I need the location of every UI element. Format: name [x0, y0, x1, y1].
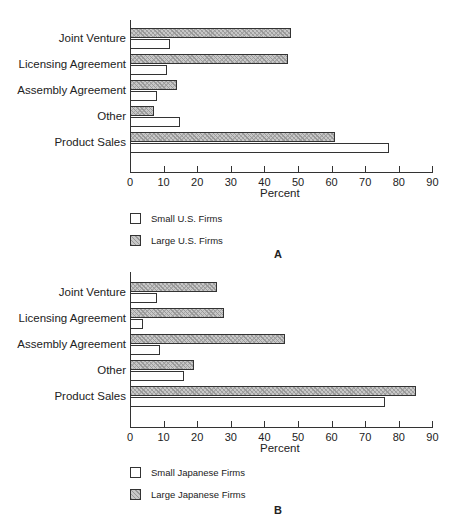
x-tick — [332, 421, 333, 427]
x-tick-label: 20 — [182, 431, 212, 443]
legend-item-small: Small Japanese Firms — [130, 467, 245, 478]
bar-small — [130, 345, 160, 355]
x-axis-label: Percent — [260, 442, 300, 454]
category-label: Licensing Agreement — [19, 312, 126, 324]
x-tick-label: 80 — [384, 431, 414, 443]
x-tick-label: 60 — [317, 431, 347, 443]
x-tick-label: 10 — [149, 431, 179, 443]
x-tick — [264, 421, 265, 427]
chart-panel-b: 0102030405060708090Joint VentureLicensin… — [0, 0, 458, 523]
x-tick-label: 0 — [115, 431, 145, 443]
category-label: Product Sales — [54, 390, 126, 402]
category-label: Assembly Agreement — [17, 338, 126, 350]
bar-small — [130, 319, 143, 329]
x-tick — [197, 421, 198, 427]
category-label: Joint Venture — [59, 286, 126, 298]
bar-small — [130, 371, 184, 381]
category-label: Other — [97, 364, 126, 376]
bar-large — [130, 360, 194, 370]
bar-small — [130, 293, 157, 303]
bar-large — [130, 308, 224, 318]
x-tick — [164, 421, 165, 427]
bar-large — [130, 334, 285, 344]
legend-label-large: Large Japanese Firms — [151, 489, 246, 500]
legend-item-large: Large Japanese Firms — [130, 489, 246, 500]
x-tick-label: 70 — [350, 431, 380, 443]
bar-small — [130, 397, 385, 407]
x-tick-label: 30 — [216, 431, 246, 443]
panel-label: B — [274, 504, 282, 516]
legend-swatch-small — [130, 467, 141, 478]
x-tick — [231, 421, 232, 427]
x-tick — [298, 421, 299, 427]
legend-label-small: Small Japanese Firms — [151, 467, 245, 478]
x-tick — [130, 421, 131, 427]
legend-swatch-large — [130, 489, 141, 500]
bar-large — [130, 386, 416, 396]
x-tick — [432, 421, 433, 427]
x-tick — [399, 421, 400, 427]
x-tick — [365, 421, 366, 427]
bar-large — [130, 282, 217, 292]
x-axis — [130, 427, 433, 428]
x-tick-label: 90 — [417, 431, 447, 443]
